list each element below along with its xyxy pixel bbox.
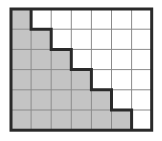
shaded-cell bbox=[11, 29, 31, 49]
empty-cell bbox=[112, 90, 132, 110]
shaded-cell bbox=[11, 9, 31, 29]
shaded-cell bbox=[91, 110, 111, 130]
shaded-cell bbox=[51, 110, 71, 130]
empty-cell bbox=[31, 9, 51, 29]
shaded-cell bbox=[11, 110, 31, 130]
empty-cell bbox=[91, 70, 111, 90]
empty-cell bbox=[51, 9, 71, 29]
staircase-grid-diagram bbox=[0, 0, 162, 141]
empty-cell bbox=[91, 29, 111, 49]
shaded-cell bbox=[31, 29, 51, 49]
empty-cell bbox=[71, 29, 91, 49]
shaded-cell bbox=[51, 49, 71, 69]
shaded-cell bbox=[71, 90, 91, 110]
shaded-cell bbox=[11, 70, 31, 90]
shaded-cell bbox=[91, 90, 111, 110]
empty-cell bbox=[51, 29, 71, 49]
empty-cell bbox=[112, 9, 132, 29]
shaded-cell bbox=[51, 90, 71, 110]
shaded-cell bbox=[11, 90, 31, 110]
empty-cell bbox=[112, 49, 132, 69]
empty-cell bbox=[91, 49, 111, 69]
shaded-cell bbox=[31, 49, 51, 69]
empty-cell bbox=[132, 70, 152, 90]
shaded-cell bbox=[71, 110, 91, 130]
shaded-cell bbox=[11, 49, 31, 69]
shaded-cell bbox=[31, 70, 51, 90]
shaded-cell bbox=[31, 110, 51, 130]
empty-cell bbox=[132, 9, 152, 29]
empty-cell bbox=[71, 9, 91, 29]
empty-cell bbox=[132, 29, 152, 49]
empty-cell bbox=[132, 110, 152, 130]
empty-cell bbox=[132, 49, 152, 69]
shaded-cell bbox=[112, 110, 132, 130]
shaded-cell bbox=[31, 90, 51, 110]
empty-cell bbox=[132, 90, 152, 110]
empty-cell bbox=[91, 9, 111, 29]
shaded-cell bbox=[71, 70, 91, 90]
empty-cell bbox=[112, 29, 132, 49]
shaded-cell bbox=[51, 70, 71, 90]
empty-cell bbox=[112, 70, 132, 90]
empty-cell bbox=[71, 49, 91, 69]
